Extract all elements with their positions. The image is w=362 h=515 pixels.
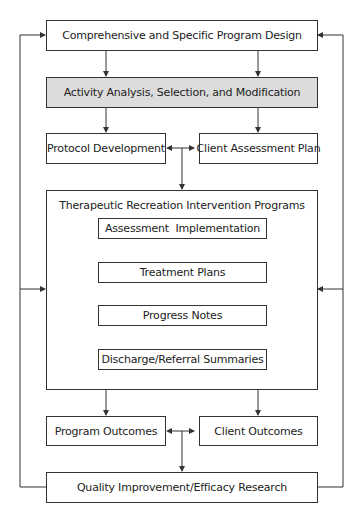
node-discharge-summaries: Discharge/Referral Summaries [98, 349, 267, 370]
node-label: Program Outcomes [55, 425, 158, 438]
node-label: Protocol Development [47, 142, 165, 155]
node-label: Discharge/Referral Summaries [101, 353, 263, 366]
node-label: Client Assessment Plan [197, 142, 321, 155]
node-progress-notes: Progress Notes [98, 305, 267, 326]
node-activity-analysis: Activity Analysis, Selection, and Modifi… [46, 77, 318, 108]
node-program-design: Comprehensive and Specific Program Desig… [46, 20, 318, 51]
node-label: Assessment Implementation [105, 222, 260, 235]
node-assessment-implementation: Assessment Implementation [98, 218, 267, 239]
node-client-assessment-plan: Client Assessment Plan [199, 133, 318, 164]
node-label: Client Outcomes [214, 425, 302, 438]
node-treatment-plans: Treatment Plans [98, 262, 267, 283]
node-client-outcomes: Client Outcomes [199, 416, 318, 446]
node-label: Treatment Plans [140, 266, 226, 279]
node-label: Quality Improvement/Efficacy Research [77, 481, 287, 494]
node-label: Progress Notes [143, 309, 222, 322]
node-program-outcomes: Program Outcomes [46, 416, 166, 446]
node-quality-improvement: Quality Improvement/Efficacy Research [46, 472, 318, 503]
container-title: Therapeutic Recreation Intervention Prog… [47, 199, 317, 212]
node-protocol-development: Protocol Development [46, 133, 166, 164]
node-label: Comprehensive and Specific Program Desig… [62, 29, 302, 42]
node-label: Activity Analysis, Selection, and Modifi… [64, 86, 301, 99]
